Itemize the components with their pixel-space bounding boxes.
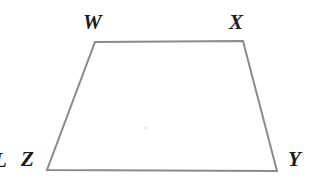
trapezoid-wxyz-outline bbox=[47, 41, 277, 171]
geometry-figure-canvas: L Z W X Y bbox=[0, 0, 317, 182]
scan-speck-artifact bbox=[145, 127, 147, 129]
trapezoid-svg bbox=[0, 0, 317, 182]
vertex-label-w: W bbox=[83, 12, 102, 33]
clipped-edge-glyph: L bbox=[0, 150, 7, 171]
vertex-label-z: Z bbox=[21, 149, 34, 170]
vertex-label-x: X bbox=[229, 12, 243, 33]
vertex-label-y: Y bbox=[288, 149, 301, 170]
